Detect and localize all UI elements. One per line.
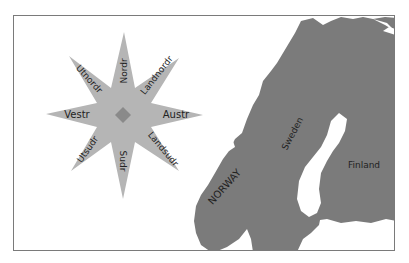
label-sudr: Sudr — [118, 151, 128, 172]
label-nordr: Nordr — [119, 58, 129, 83]
label-vestr: Vestr — [64, 109, 90, 120]
map-frame: Nordr Landnordr Austr Landsudr Sudr Utsu… — [13, 15, 395, 251]
label-finland: Finland — [348, 160, 380, 170]
label-austr: Austr — [163, 109, 190, 120]
scandinavia-map: Nordr Landnordr Austr Landsudr Sudr Utsu… — [14, 16, 395, 251]
label-utnordr: Utnordr — [74, 63, 105, 95]
